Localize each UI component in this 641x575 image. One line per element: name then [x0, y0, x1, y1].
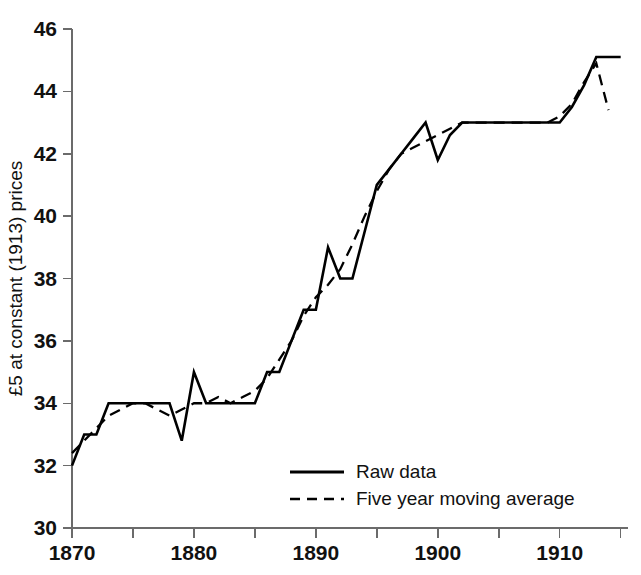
- legend-label: Raw data: [356, 461, 437, 482]
- x-axis-tick-labels: 18701880189019001910: [49, 541, 583, 564]
- x-tick-label: 1910: [536, 541, 583, 564]
- y-axis-title: £5 at constant (1913) prices: [5, 161, 26, 397]
- chart-container: 303234363840424446 18701880189019001910 …: [0, 0, 641, 575]
- y-tick-label: 46: [34, 17, 57, 40]
- y-axis-ticks: [63, 29, 72, 528]
- y-tick-label: 36: [34, 329, 57, 352]
- x-tick-label: 1880: [171, 541, 218, 564]
- y-tick-label: 40: [34, 204, 57, 227]
- x-tick-label: 1870: [49, 541, 96, 564]
- x-axis-group: 18701880189019001910: [49, 528, 628, 564]
- x-tick-label: 1890: [293, 541, 340, 564]
- series-line-raw-data: [72, 57, 621, 466]
- y-tick-label: 32: [34, 454, 57, 477]
- x-tick-label: 1900: [414, 541, 461, 564]
- y-tick-label: 34: [34, 391, 58, 414]
- y-axis-group: 303234363840424446: [34, 17, 72, 539]
- y-tick-label: 42: [34, 142, 57, 165]
- chart-legend: Raw dataFive year moving average: [290, 461, 575, 509]
- data-series-group: [72, 57, 621, 466]
- y-tick-label: 38: [34, 267, 58, 290]
- x-axis-ticks: [72, 528, 621, 538]
- line-chart: 303234363840424446 18701880189019001910 …: [0, 0, 641, 575]
- y-tick-label: 44: [34, 79, 58, 102]
- y-axis-tick-labels: 303234363840424446: [34, 17, 58, 539]
- y-tick-label: 30: [34, 516, 57, 539]
- legend-label: Five year moving average: [356, 488, 575, 509]
